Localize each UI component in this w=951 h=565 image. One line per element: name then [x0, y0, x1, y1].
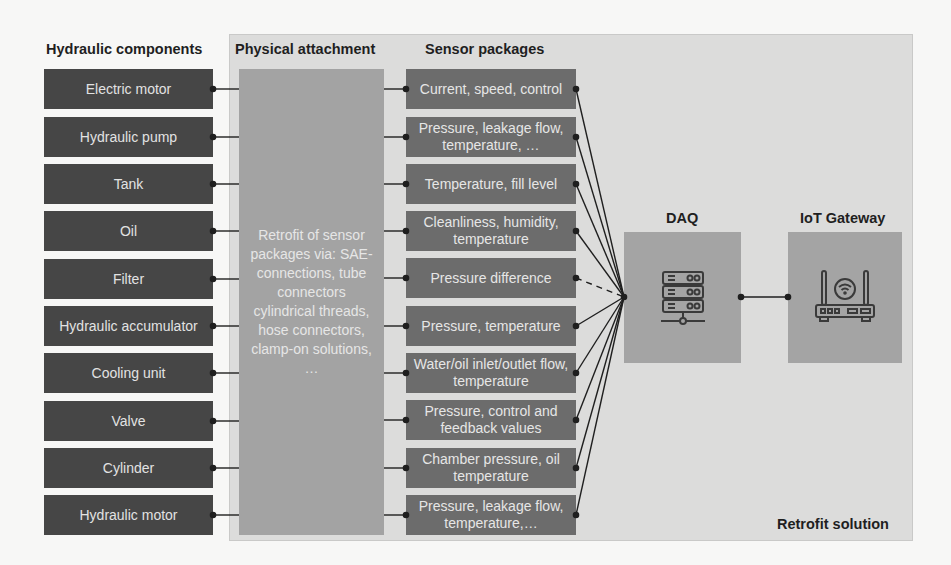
connection-lines: [0, 0, 951, 565]
